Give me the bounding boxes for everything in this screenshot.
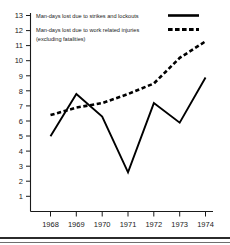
y-tick-label-4: 4 [19, 147, 23, 156]
y-tick-label-8: 8 [19, 87, 23, 96]
x-tick-label-1974: 1974 [197, 220, 214, 229]
chart-background [0, 0, 230, 245]
y-tick-label-9: 9 [19, 72, 23, 81]
y-tick-label-6: 6 [19, 117, 23, 126]
x-tick-label-1973: 1973 [171, 220, 188, 229]
y-tick-label-2: 2 [19, 177, 23, 186]
legend-label-strikes-lockouts: Man-days lost due to strikes and lockout… [36, 13, 139, 19]
page-divider-rule [0, 237, 230, 239]
x-tick-label-1970: 1970 [94, 220, 111, 229]
y-tick-label-13: 13 [15, 11, 23, 20]
x-tick-label-1969: 1969 [68, 220, 85, 229]
legend-label-work-injuries-line2: (excluding fatalities) [36, 36, 86, 42]
y-tick-label-5: 5 [19, 132, 23, 141]
line-chart-svg: 13 12 11 10 9 8 7 6 5 4 3 2 1 1968 1969 … [0, 0, 230, 245]
x-tick-label-1968: 1968 [42, 220, 59, 229]
y-tick-label-3: 3 [19, 162, 23, 171]
legend-label-work-injuries-line1: Man-days lost due to work related injuri… [36, 27, 139, 33]
x-tick-label-1972: 1972 [145, 220, 162, 229]
chart-figure: 13 12 11 10 9 8 7 6 5 4 3 2 1 1968 1969 … [0, 0, 230, 245]
page-divider-rule-secondary [0, 242, 230, 243]
y-tick-label-7: 7 [19, 102, 23, 111]
y-tick-label-10: 10 [15, 56, 23, 65]
y-tick-label-12: 12 [15, 26, 23, 35]
y-tick-label-11: 11 [15, 41, 23, 50]
y-tick-label-1: 1 [19, 192, 23, 201]
x-tick-label-1971: 1971 [120, 220, 137, 229]
